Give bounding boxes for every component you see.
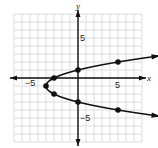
data-point [51,91,57,97]
data-point [75,99,81,105]
x-axis-left-arrow-icon [10,76,17,81]
curve-upper-arrow-icon [151,54,158,59]
x-axis-right-arrow-icon [139,76,146,81]
y-axis-down-arrow-icon [76,139,81,146]
y-tick-label-5: 5 [80,33,85,43]
curve-lower-arrow-icon [151,112,158,117]
coordinate-plane: y x −5 5 5 −5 [0,0,158,148]
data-point [51,75,57,81]
x-tick-label-5: 5 [115,80,120,90]
data-point [75,67,81,73]
data-point [115,59,121,65]
x-tick-label-neg5: −5 [25,78,35,88]
y-axis-up-arrow-icon [76,10,81,17]
y-tick-label-neg5: −5 [80,113,90,123]
data-point [115,107,121,113]
y-axis-label: y [75,1,80,11]
x-axis-label: x [146,73,151,83]
data-point [43,83,49,89]
